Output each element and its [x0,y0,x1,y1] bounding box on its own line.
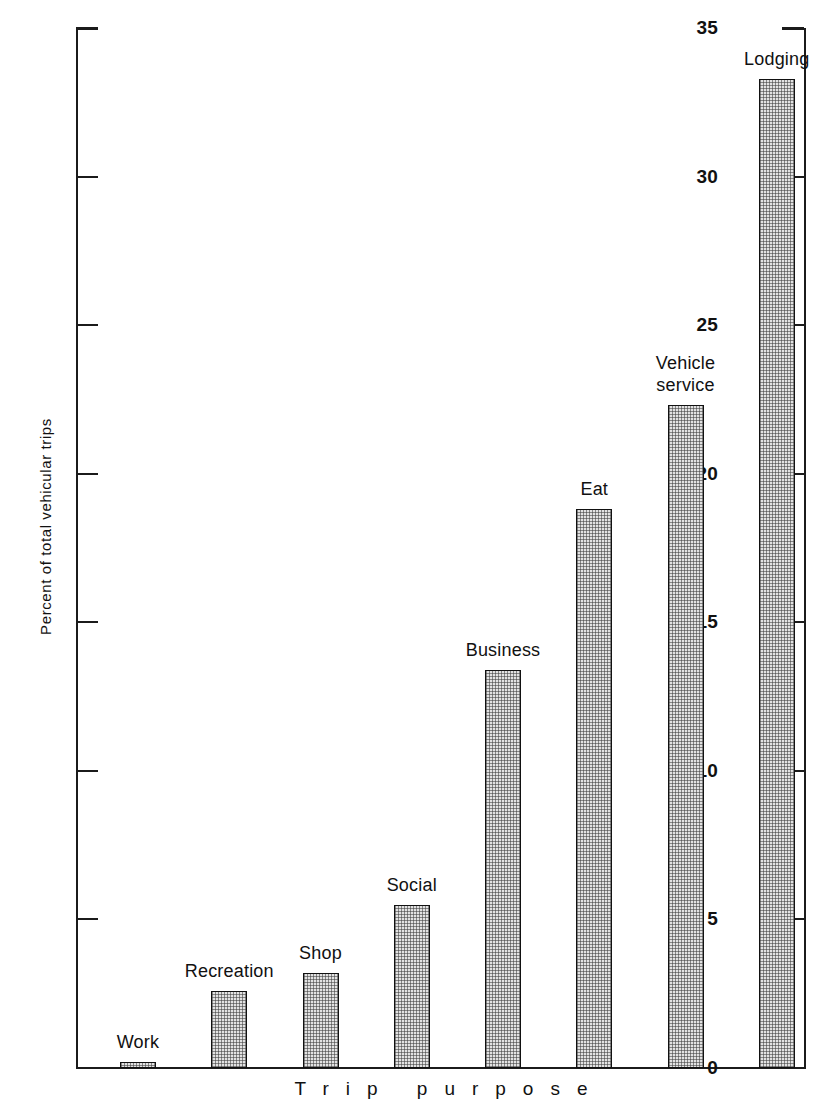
y-tick-label: 0 [707,1057,718,1079]
bar-label: Shop [299,943,342,965]
y-tick-label: 5 [707,908,718,930]
bar [211,991,247,1068]
y-axis-line-left [76,28,78,1069]
x-axis-title: Trip purpose [76,1078,806,1100]
bar-label: Recreation [185,961,274,983]
y-axis-line-right [804,28,806,1069]
y-tick-left [76,176,98,178]
plot-area: 05101520253035 WorkRecreationShopSocialB… [76,28,806,1068]
y-tick-right [782,27,804,29]
bar [668,405,704,1068]
y-axis-title: Percent of total vehicular trips [37,327,54,727]
bar [394,905,430,1068]
bar [485,670,521,1068]
y-tick-left [76,27,98,29]
bar-label: Vehicle service [656,353,715,397]
bar-label: Social [387,875,437,897]
y-tick-left [76,621,98,623]
y-tick-left [76,473,98,475]
y-tick-label: 35 [696,17,718,39]
y-tick-label: 25 [696,314,718,336]
bar [120,1062,156,1068]
bar [303,973,339,1068]
bar [576,509,612,1068]
bar-label: Work [117,1032,159,1054]
bar-label: Business [466,640,541,662]
bar-label: Lodging [744,49,809,71]
y-tick-label: 30 [696,166,718,188]
y-tick-left [76,1067,98,1069]
y-tick-left [76,324,98,326]
bar-chart: Percent of total vehicular trips 0510152… [0,0,836,1118]
y-tick-left [76,770,98,772]
bar [759,79,795,1068]
bar-label: Eat [580,479,608,501]
y-tick-left [76,918,98,920]
